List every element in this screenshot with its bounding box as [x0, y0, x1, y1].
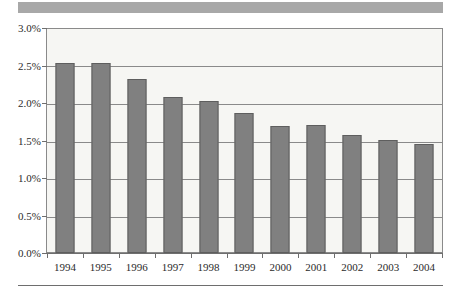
x-axis-tickmark	[262, 253, 263, 258]
x-axis-tickmark	[442, 253, 443, 258]
y-axis-tick-label: 2.0%	[0, 97, 41, 109]
bar[interactable]	[55, 63, 74, 253]
x-axis-tickmark	[334, 253, 335, 258]
x-axis-tickmark	[155, 253, 156, 258]
x-axis-tick-label: 2001	[305, 261, 327, 273]
y-axis-tick-label: 3.0%	[0, 22, 41, 34]
y-axis-tick-label: 0.0%	[0, 247, 41, 259]
bar[interactable]	[379, 140, 398, 253]
bar-slot	[370, 29, 406, 253]
y-axis-tick-label: 1.0%	[0, 172, 41, 184]
bar[interactable]	[199, 101, 218, 253]
x-axis-tick-label: 2004	[413, 261, 435, 273]
bar-slot	[83, 29, 119, 253]
x-axis-tick-label: 1994	[54, 261, 76, 273]
bar[interactable]	[235, 113, 254, 253]
bar-slot	[155, 29, 191, 253]
y-axis-tick-label: 1.5%	[0, 135, 41, 147]
bar-slot	[334, 29, 370, 253]
x-axis-labels: 1994199519961997199819992000200120022003…	[47, 261, 442, 277]
bar[interactable]	[415, 144, 434, 253]
x-axis-tick-label: 1997	[162, 261, 184, 273]
x-axis-tickmark	[370, 253, 371, 258]
bar-slot	[406, 29, 442, 253]
x-axis-tickmark	[83, 253, 84, 258]
bar-slot	[227, 29, 263, 253]
bar-slot	[191, 29, 227, 253]
y-axis-tick-label: 2.5%	[0, 60, 41, 72]
x-axis-tick-label: 1999	[234, 261, 256, 273]
bar-slot	[298, 29, 334, 253]
x-axis-tick-label: 1995	[90, 261, 112, 273]
bar[interactable]	[307, 125, 326, 253]
x-axis-tickmark	[191, 253, 192, 258]
bar[interactable]	[91, 63, 110, 253]
x-axis-tick-label: 2000	[269, 261, 291, 273]
x-axis-tickmark	[227, 253, 228, 258]
bar-slot	[47, 29, 83, 253]
bar[interactable]	[271, 126, 290, 253]
bar-series	[47, 29, 442, 253]
x-axis-tick-label: 2002	[341, 261, 363, 273]
bar-slot	[262, 29, 298, 253]
footer-rule	[18, 285, 443, 286]
bar[interactable]	[343, 135, 362, 253]
bar-chart-figure: 3.0%2.5%2.0%1.5%1.0%0.5%0.0% 19941995199…	[0, 0, 460, 296]
x-axis-tickmark	[47, 253, 48, 258]
bar[interactable]	[163, 97, 182, 253]
x-axis-line	[46, 253, 443, 254]
x-axis-tick-label: 1996	[126, 261, 148, 273]
x-axis-tickmark	[119, 253, 120, 258]
x-axis-tickmark	[298, 253, 299, 258]
bar-slot	[119, 29, 155, 253]
y-axis-tick-label: 0.5%	[0, 210, 41, 222]
x-axis-tickmark	[406, 253, 407, 258]
bar[interactable]	[127, 79, 146, 253]
x-axis-tick-label: 2003	[377, 261, 399, 273]
x-axis-tick-label: 1998	[198, 261, 220, 273]
